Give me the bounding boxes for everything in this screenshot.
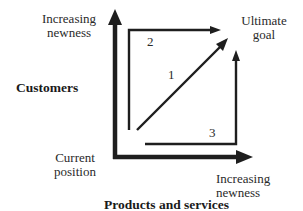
y-axis-end-label-line1: Increasing — [38, 12, 100, 25]
y-axis-end-label: Increasing newness — [38, 12, 100, 39]
path-2-arrow — [129, 26, 221, 130]
ultimate-goal-label-line2: goal — [240, 28, 288, 41]
x-axis-title: Products and services — [104, 198, 229, 211]
path-3-number: 3 — [209, 126, 216, 139]
current-position-label: Current position — [50, 151, 100, 178]
y-axis-end-label-line2: newness — [38, 26, 100, 39]
current-position-label-line1: Current — [50, 151, 100, 164]
ultimate-goal-label-line1: Ultimate — [240, 14, 288, 27]
path-2-number: 2 — [147, 35, 154, 48]
y-axis-title: Customers — [16, 81, 78, 94]
path-1-number: 1 — [168, 68, 175, 81]
path-3-arrow — [145, 50, 240, 144]
current-position-label-line2: position — [50, 165, 100, 178]
x-axis-end-label-line1: Increasing — [216, 172, 270, 185]
growth-path-diagram: Increasing newness Ultimate goal Custome… — [0, 0, 303, 211]
x-axis-arrow — [113, 150, 253, 164]
x-axis-end-label: Increasing newness — [216, 172, 270, 199]
y-axis-arrow — [108, 9, 122, 159]
path-1-arrow — [137, 38, 228, 130]
ultimate-goal-label: Ultimate goal — [240, 14, 288, 41]
